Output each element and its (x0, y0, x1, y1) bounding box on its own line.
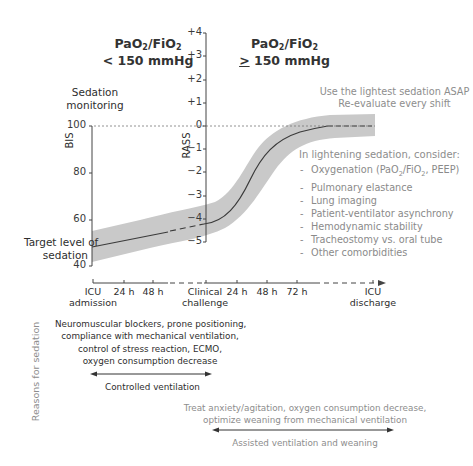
rass-axis-label: RASS (181, 126, 192, 166)
item-text: , PEEP) (425, 164, 459, 175)
assisted-ventilation-label: Assisted ventilation and weaning (215, 438, 395, 449)
controlled-reasons: Neuromuscular blockers, prone positionin… (55, 318, 245, 367)
header-pf-high-symbol: > (239, 53, 249, 68)
lightening-item: Lung imaging (300, 194, 459, 207)
tick-line1: ICU (348, 286, 398, 297)
reason-line: control of stress reaction, ECMO, (55, 343, 245, 355)
target-level-line2: sedation (24, 249, 88, 262)
assisted-reasons: Treat anxiety/agitation, oxygen consumpt… (180, 402, 430, 427)
lightest-note-line2: Re-evaluate every shift (312, 98, 473, 110)
timeline-tick-24h: 24 h (109, 286, 139, 297)
bis-tick-80: 80 (56, 166, 86, 177)
timeline-tick-24h-2: 24 h (222, 286, 252, 297)
subscript: 2 (312, 43, 318, 52)
reason-line: oxygen consumption decrease (55, 355, 245, 367)
header-pf-high-line1-mid: /FiO (284, 36, 312, 51)
header-pf-high-line1: PaO (251, 36, 279, 51)
controlled-ventilation-arrow (90, 372, 212, 377)
tick-line2: admission (68, 297, 118, 308)
lightening-item-oxygenation: Oxygenation (PaO2/FiO2, PEEP) (300, 163, 459, 181)
rass-tick: +4 (172, 26, 202, 37)
sedation-monitoring-label: Sedation monitoring (62, 86, 128, 111)
bis-axis-label: BIS (64, 126, 75, 156)
item-text: /FiO (403, 164, 421, 175)
reason-line: optimize weaning from mechanical ventila… (180, 414, 430, 426)
timeline-tick-icu-discharge: ICU discharge (348, 286, 398, 309)
controlled-ventilation-label: Controlled ventilation (90, 382, 215, 393)
lightening-title: In lightening sedation, consider: (299, 149, 460, 161)
sedation-monitoring-line2: monitoring (62, 99, 128, 112)
header-pf-high: PaO2/FiO2 > 150 mmHg (232, 36, 337, 68)
rass-tick: +1 (172, 96, 202, 107)
tick-line2: challenge (180, 297, 230, 308)
timeline-tick-48h: 48 h (138, 286, 168, 297)
timeline-axis (93, 279, 378, 283)
bis-tick-60: 60 (56, 213, 86, 224)
rass-tick: +2 (172, 73, 202, 84)
lightening-item: Hemodynamic stability (300, 220, 459, 233)
header-pf-high-line2: 150 mmHg (250, 53, 330, 68)
rass-tick: +3 (172, 49, 202, 60)
lightening-item: Patient-ventilator asynchrony (300, 207, 459, 220)
target-level-label: Target level of sedation (24, 236, 88, 261)
timeline-tick-48h-2: 48 h (252, 286, 282, 297)
lightening-item: Other comorbidities (300, 246, 459, 259)
lightening-list: Oxygenation (PaO2/FiO2, PEEP) Pulmonary … (300, 163, 459, 259)
assisted-ventilation-arrow (212, 428, 394, 433)
lightest-note-line1: Use the lightest sedation ASAP (312, 86, 473, 98)
item-text: Oxygenation (PaO (311, 164, 399, 175)
rass-tick: −4 (172, 212, 202, 223)
sedation-monitoring-line1: Sedation (62, 86, 128, 99)
lightening-item: Tracheostomy vs. oral tube (300, 233, 459, 246)
rass-tick: −3 (172, 189, 202, 200)
lightest-sedation-note: Use the lightest sedation ASAP Re-evalua… (312, 86, 473, 109)
tick-line2: discharge (348, 297, 398, 308)
reason-line: compliance with mechanical ventilation, (55, 330, 245, 342)
rass-tick: −5 (172, 235, 202, 246)
reasons-for-sedation-label: Reasons for sedation (30, 317, 41, 427)
rass-tick: −2 (172, 165, 202, 176)
header-pf-low-line1: PaO (114, 36, 142, 51)
timeline-tick-72h: 72 h (282, 286, 312, 297)
lightening-item: Pulmonary elastance (300, 181, 459, 194)
reason-line: Neuromuscular blockers, prone positionin… (55, 318, 245, 330)
target-level-line1: Target level of (24, 236, 88, 249)
reason-line: Treat anxiety/agitation, oxygen consumpt… (180, 402, 430, 414)
